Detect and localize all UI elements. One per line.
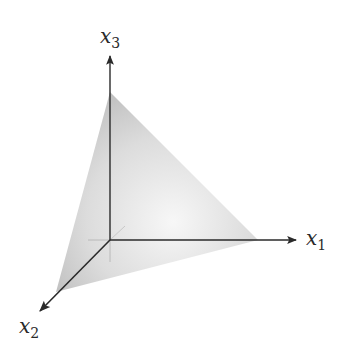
simplex-diagram xyxy=(0,0,357,355)
x2-axis-label: x2 xyxy=(19,316,39,340)
x3-axis-label: x3 xyxy=(100,26,120,50)
x1-axis-label: x1 xyxy=(306,228,326,252)
simplex-face xyxy=(56,92,258,292)
